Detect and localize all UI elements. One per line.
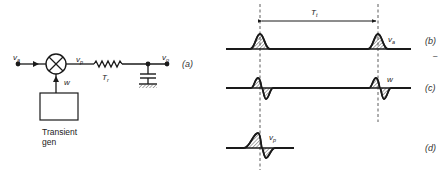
waveform-d: vp (d) [226,133,436,158]
output-label: vo [162,53,169,63]
dash-mark: – [432,51,438,60]
period-label: Tt [311,8,318,18]
capacitor-icon [140,64,156,84]
waveform-b-label: va [388,35,395,45]
panel-label-d: (d) [425,143,436,153]
panel-label-a: (a) [182,59,193,69]
ground-icon [139,84,157,88]
waveform-d-label: vp [269,133,276,143]
generator-label-line1: Transient [42,127,78,137]
generator-label-line2: gen [42,137,56,147]
input-arrow-icon [33,61,39,67]
input-label: va [13,53,20,63]
panel-label-c: (c) [425,83,436,93]
waveform-b: va (b) [226,34,436,49]
modulation-label: w [64,78,71,87]
diagram: va vp Tr vo [0,0,448,174]
waveform-c-label: w [387,75,394,84]
mixer-output-label: vp [76,55,83,65]
resistor-label: Tr [102,73,110,83]
multiplier-icon [46,54,66,74]
panel-label-b: (b) [425,36,436,46]
modulation-arrow-icon [53,76,59,82]
circuit-diagram: va vp Tr vo [13,53,193,147]
waveform-panels: Tt va (b) – w (c) vp (d) [226,4,438,170]
waveform-c: w (c) [226,75,436,99]
transient-generator-block [40,93,78,120]
resistor-icon [94,61,122,67]
